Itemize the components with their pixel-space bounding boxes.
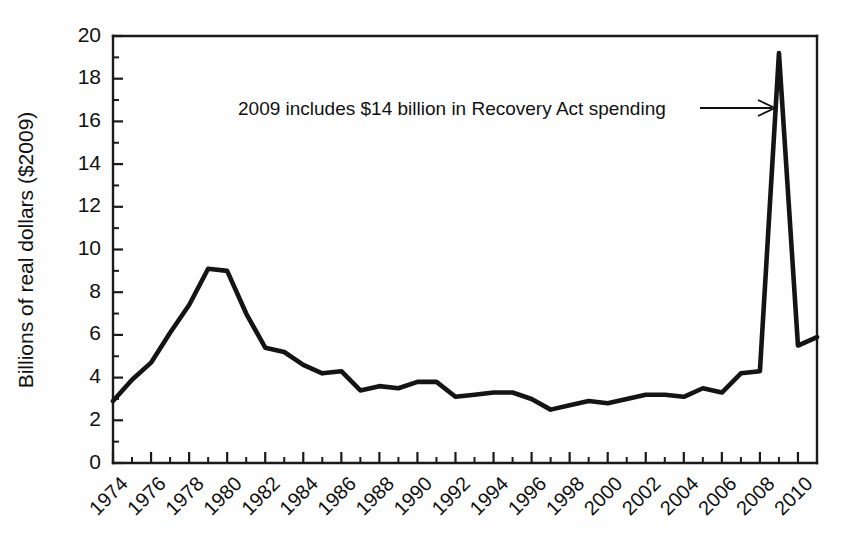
x-tick-label: 2002 bbox=[618, 472, 665, 519]
y-tick-label: 8 bbox=[89, 279, 101, 302]
x-tick-label: 2006 bbox=[694, 472, 741, 519]
x-tick-label: 1976 bbox=[123, 472, 170, 519]
x-tick-label: 1992 bbox=[427, 472, 474, 519]
x-tick-label: 2008 bbox=[732, 472, 779, 519]
x-tick-label: 1996 bbox=[503, 472, 550, 519]
y-tick-label: 10 bbox=[78, 236, 101, 259]
y-tick-label: 4 bbox=[89, 364, 101, 387]
x-tick-label: 1980 bbox=[199, 472, 246, 519]
x-tick-label: 2000 bbox=[580, 472, 627, 519]
y-tick-label: 20 bbox=[78, 23, 101, 46]
x-tick-label: 1998 bbox=[541, 472, 588, 519]
y-tick-label: 16 bbox=[78, 108, 101, 131]
y-tick-label: 0 bbox=[89, 450, 101, 473]
x-tick-label: 1974 bbox=[85, 472, 132, 519]
x-tick-label: 1986 bbox=[313, 472, 360, 519]
x-tick-label: 2004 bbox=[656, 472, 703, 519]
x-tick-label: 1978 bbox=[161, 472, 208, 519]
recovery-act-annotation-text: 2009 includes $14 billion in Recovery Ac… bbox=[238, 98, 666, 119]
x-tick-label: 1990 bbox=[389, 472, 436, 519]
x-tick-label: 1984 bbox=[275, 472, 322, 519]
x-tick-label: 1982 bbox=[237, 472, 284, 519]
y-axis-tick-labels: 02468101214161820 bbox=[78, 23, 102, 473]
y-tick-label: 2 bbox=[89, 407, 101, 430]
annotation-arrow-icon bbox=[700, 100, 775, 116]
y-tick-label: 6 bbox=[89, 321, 101, 344]
y-tick-label: 14 bbox=[78, 151, 102, 174]
x-axis-tick-labels: 1974197619781980198219841986198819901992… bbox=[85, 472, 817, 519]
x-tick-label: 1988 bbox=[351, 472, 398, 519]
x-tick-label: 2010 bbox=[770, 472, 817, 519]
y-tick-label: 18 bbox=[78, 65, 101, 88]
x-axis-ticks bbox=[113, 452, 817, 463]
x-tick-label: 1994 bbox=[465, 472, 512, 519]
y-tick-label: 12 bbox=[78, 193, 101, 216]
chart-figure: 02468101214161820 1974197619781980198219… bbox=[0, 0, 849, 554]
y-axis-title: Billions of real dollars ($2009) bbox=[14, 112, 37, 389]
line-chart: 02468101214161820 1974197619781980198219… bbox=[0, 0, 849, 554]
